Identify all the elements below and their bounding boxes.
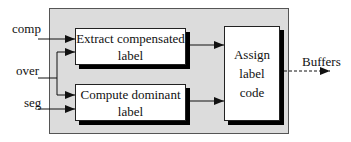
- input-label-seg: seg: [24, 96, 41, 110]
- input-label-comp: comp: [12, 22, 41, 36]
- output-label-buffers: Buffers: [302, 55, 341, 69]
- connector-wires: [0, 0, 351, 142]
- input-label-over: over: [16, 64, 39, 78]
